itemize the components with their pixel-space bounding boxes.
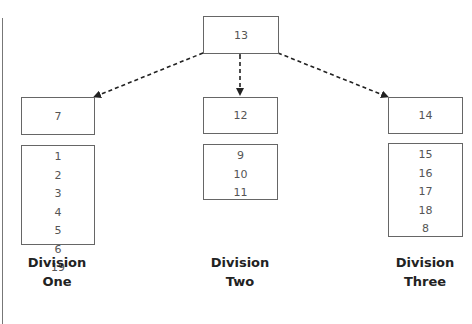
list-item: 18 xyxy=(419,202,433,221)
list-item: 11 xyxy=(234,184,248,203)
division-one-head-label: 7 xyxy=(55,110,62,123)
list-item: 3 xyxy=(55,185,62,204)
division-one-title-line1: Division xyxy=(7,253,107,272)
list-item: 8 xyxy=(422,220,429,239)
connector-13-to-7 xyxy=(94,53,203,97)
division-two-member-list: 9 10 11 xyxy=(203,144,278,200)
list-item: 5 xyxy=(55,222,62,241)
root-node-13: 13 xyxy=(203,16,279,54)
list-item: 4 xyxy=(55,204,62,223)
list-item: 9 xyxy=(237,147,244,166)
division-two-title-line1: Division xyxy=(190,253,290,272)
division-three-head-node: 14 xyxy=(388,97,463,134)
division-three-member-list: 15 16 17 18 8 xyxy=(388,143,463,237)
list-item: 1 xyxy=(55,148,62,167)
connector-13-to-14 xyxy=(278,53,388,97)
division-three-title-line1: Division xyxy=(375,253,472,272)
list-item: 10 xyxy=(234,166,248,185)
division-one-head-node: 7 xyxy=(21,97,95,135)
division-two-title: Division Two xyxy=(190,253,290,291)
division-two-head-label: 12 xyxy=(234,109,248,122)
division-one-title: Division One xyxy=(7,253,107,291)
root-node-label: 13 xyxy=(234,29,248,42)
division-two-head-node: 12 xyxy=(203,97,278,134)
division-three-title: Division Three xyxy=(375,253,472,291)
list-item: 16 xyxy=(419,165,433,184)
division-one-title-line2: One xyxy=(7,272,107,291)
list-item: 2 xyxy=(55,167,62,186)
division-three-head-label: 14 xyxy=(419,109,433,122)
list-item: 17 xyxy=(419,183,433,202)
list-item: 15 xyxy=(419,146,433,165)
division-one-member-list: 1 2 3 4 5 6 19 xyxy=(21,145,95,245)
division-two-title-line2: Two xyxy=(190,272,290,291)
division-three-title-line2: Three xyxy=(375,272,472,291)
